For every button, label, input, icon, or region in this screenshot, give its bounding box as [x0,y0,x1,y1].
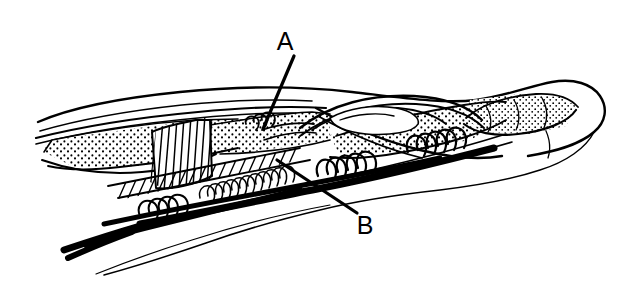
figure-canvas: A B [0,0,629,282]
illustration-ink [30,56,605,275]
anatomical-illustration: A B [0,0,629,282]
label-b: B [357,211,374,239]
label-a: A [277,27,294,55]
tendon-stippled-texture [30,90,588,184]
